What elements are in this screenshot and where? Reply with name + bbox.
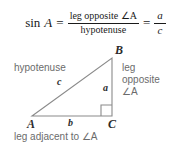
fraction-denominator-words: hypotenuse (79, 25, 129, 36)
ratio-fraction-letters: a c (154, 10, 166, 36)
equals-sign-2: = (143, 15, 150, 31)
fraction-numerator-letter: a (154, 10, 166, 22)
vertex-label-b: B (115, 43, 123, 58)
right-triangle-diagram: A B C c a b hypotenuse leg opposite ∠A l… (0, 40, 191, 151)
opposite-leg-annotation-line3: ∠A (122, 86, 138, 97)
equals-sign-1: = (56, 15, 63, 31)
trigonometry-sine-figure: sin A = leg opposite ∠A hypotenuse = a c… (0, 0, 191, 151)
vertex-label-a: A (27, 117, 35, 132)
side-label-b-adjacent: b (68, 117, 73, 128)
ratio-fraction-words: leg opposite ∠A hypotenuse (68, 11, 139, 35)
fraction-denominator-letter: c (155, 25, 166, 37)
sine-formula: sin A = leg opposite ∠A hypotenuse = a c (0, 6, 191, 40)
adjacent-leg-caption: leg adjacent to ∠A (14, 131, 98, 142)
vertex-label-c: C (108, 117, 116, 132)
right-angle-marker-icon (101, 105, 112, 116)
opposite-leg-annotation-line1: leg (122, 62, 135, 73)
side-label-a-opposite: a (103, 82, 108, 93)
sine-angle-label: A (44, 15, 52, 31)
hypotenuse-annotation: hypotenuse (14, 62, 66, 73)
sine-function-label: sin (25, 15, 40, 31)
side-label-c-hypotenuse: c (57, 76, 61, 87)
fraction-numerator-words: leg opposite ∠A (68, 11, 139, 22)
opposite-leg-annotation-line2: opposite (122, 74, 160, 85)
